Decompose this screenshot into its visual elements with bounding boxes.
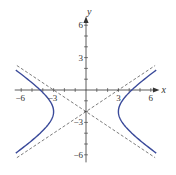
y-tick-label: −6 (73, 150, 83, 160)
hyperbola-plot: −6−33663−3−6xy (0, 0, 176, 175)
x-axis-arrow-icon (153, 87, 159, 92)
axes (15, 17, 160, 163)
x-tick-label: −3 (48, 93, 58, 103)
x-tick-label: 6 (149, 93, 154, 103)
x-tick-label: 3 (116, 93, 121, 103)
x-tick-label: −6 (15, 93, 25, 103)
y-tick-label: 6 (79, 20, 84, 30)
hyperbola-right-branch (118, 70, 156, 153)
tick-labels: −6−33663−3−6xy (15, 6, 166, 160)
y-tick-label: 3 (79, 53, 84, 63)
hyperbola-left-branch (16, 70, 54, 153)
y-axis-arrow-icon (83, 17, 88, 23)
x-axis-label: x (160, 84, 166, 95)
y-axis-label: y (86, 6, 92, 17)
y-tick-label: −3 (73, 117, 83, 127)
